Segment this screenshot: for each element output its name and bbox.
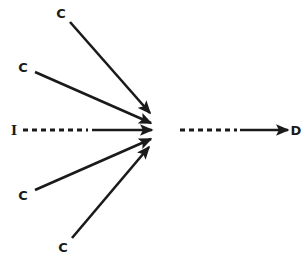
edge-c-upper-left	[35, 72, 151, 123]
node-label-c-bottom: C	[58, 241, 68, 254]
diagram-canvas: C C I C C D	[0, 0, 307, 265]
node-label-c-upper-left: C	[18, 61, 28, 74]
node-label-c-top: C	[56, 7, 66, 20]
edge-c-bottom	[72, 147, 149, 238]
node-label-i-input: I	[11, 124, 17, 137]
node-label-d-output: D	[291, 124, 302, 137]
edge-group	[23, 22, 288, 238]
diagram-vector-layer	[0, 0, 307, 265]
edge-c-top	[70, 22, 150, 113]
node-label-c-lower-left: C	[18, 189, 28, 202]
